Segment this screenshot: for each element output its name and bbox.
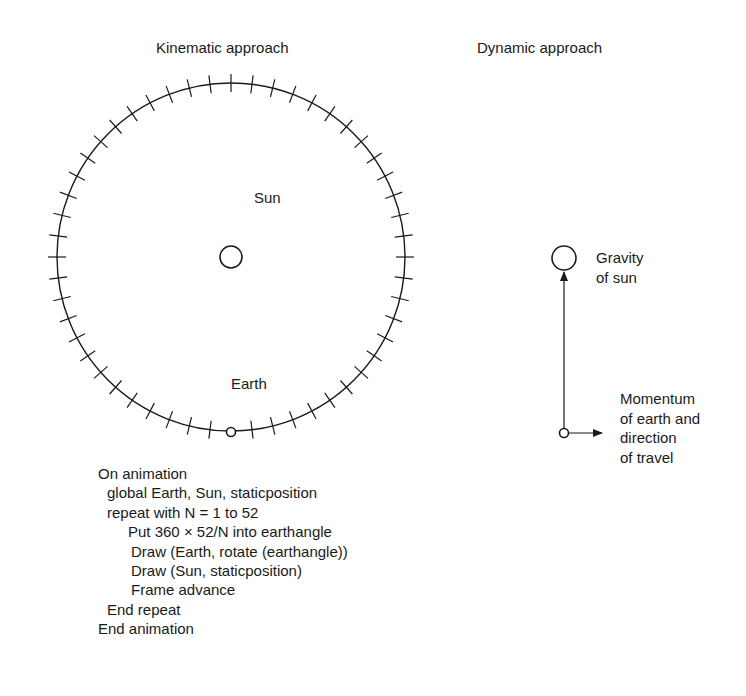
orbit-tick xyxy=(325,393,335,408)
code-line: Draw (Earth, rotate (earthangle)) xyxy=(98,542,348,561)
orbit-tick xyxy=(290,411,296,428)
momentum-label: Momentum of earth and direction of trave… xyxy=(620,389,700,467)
code-line: End repeat xyxy=(98,600,348,619)
sun-icon xyxy=(220,246,242,268)
code-line: repeat with N = 1 to 52 xyxy=(98,503,348,522)
orbit-tick xyxy=(308,403,316,419)
code-line: On animation xyxy=(98,464,348,483)
dynamic-earth-icon xyxy=(560,429,569,438)
orbit-tick xyxy=(290,86,296,103)
orbit-tick xyxy=(127,106,137,121)
orbit-tick xyxy=(308,95,316,111)
momentum-label-line: direction xyxy=(620,428,700,448)
orbit-tick xyxy=(69,172,85,180)
orbit-tick xyxy=(377,334,393,342)
orbit-tick xyxy=(367,351,382,361)
orbit-tick xyxy=(127,393,137,408)
orbit-tick xyxy=(80,153,95,163)
code-line: Frame advance xyxy=(98,580,348,599)
momentum-label-line: of travel xyxy=(620,448,700,468)
orbit-tick xyxy=(367,153,382,163)
momentum-label-line: of earth and xyxy=(620,409,700,429)
earth-icon xyxy=(227,428,236,437)
orbit-tick xyxy=(60,316,77,322)
orbit-tick xyxy=(146,95,154,111)
gravity-label: Gravity of sun xyxy=(596,248,644,287)
orbit-tick xyxy=(146,403,154,419)
gravity-label-line: of sun xyxy=(596,268,644,288)
momentum-label-line: Momentum xyxy=(620,389,700,409)
code-line: Put 360 × 52/N into earthangle xyxy=(98,522,348,541)
code-line: global Earth, Sun, staticposition xyxy=(98,483,348,502)
code-line: End animation xyxy=(98,619,348,638)
sun-label: Sun xyxy=(254,188,281,207)
orbit-tick xyxy=(60,192,77,198)
earth-label: Earth xyxy=(231,374,267,393)
orbit-tick xyxy=(385,316,402,322)
orbit-tick xyxy=(69,334,85,342)
orbit-tick xyxy=(325,106,335,121)
gravity-sun-icon xyxy=(552,246,576,270)
gravity-label-line: Gravity xyxy=(596,248,644,268)
orbit-tick xyxy=(166,86,172,103)
orbit-tick xyxy=(166,411,172,428)
orbit-tick xyxy=(385,192,402,198)
animation-code-listing: On animation global Earth, Sun, staticpo… xyxy=(98,464,348,639)
orbit-tick xyxy=(377,172,393,180)
code-line: Draw (Sun, staticposition) xyxy=(98,561,348,580)
orbit-tick xyxy=(80,351,95,361)
